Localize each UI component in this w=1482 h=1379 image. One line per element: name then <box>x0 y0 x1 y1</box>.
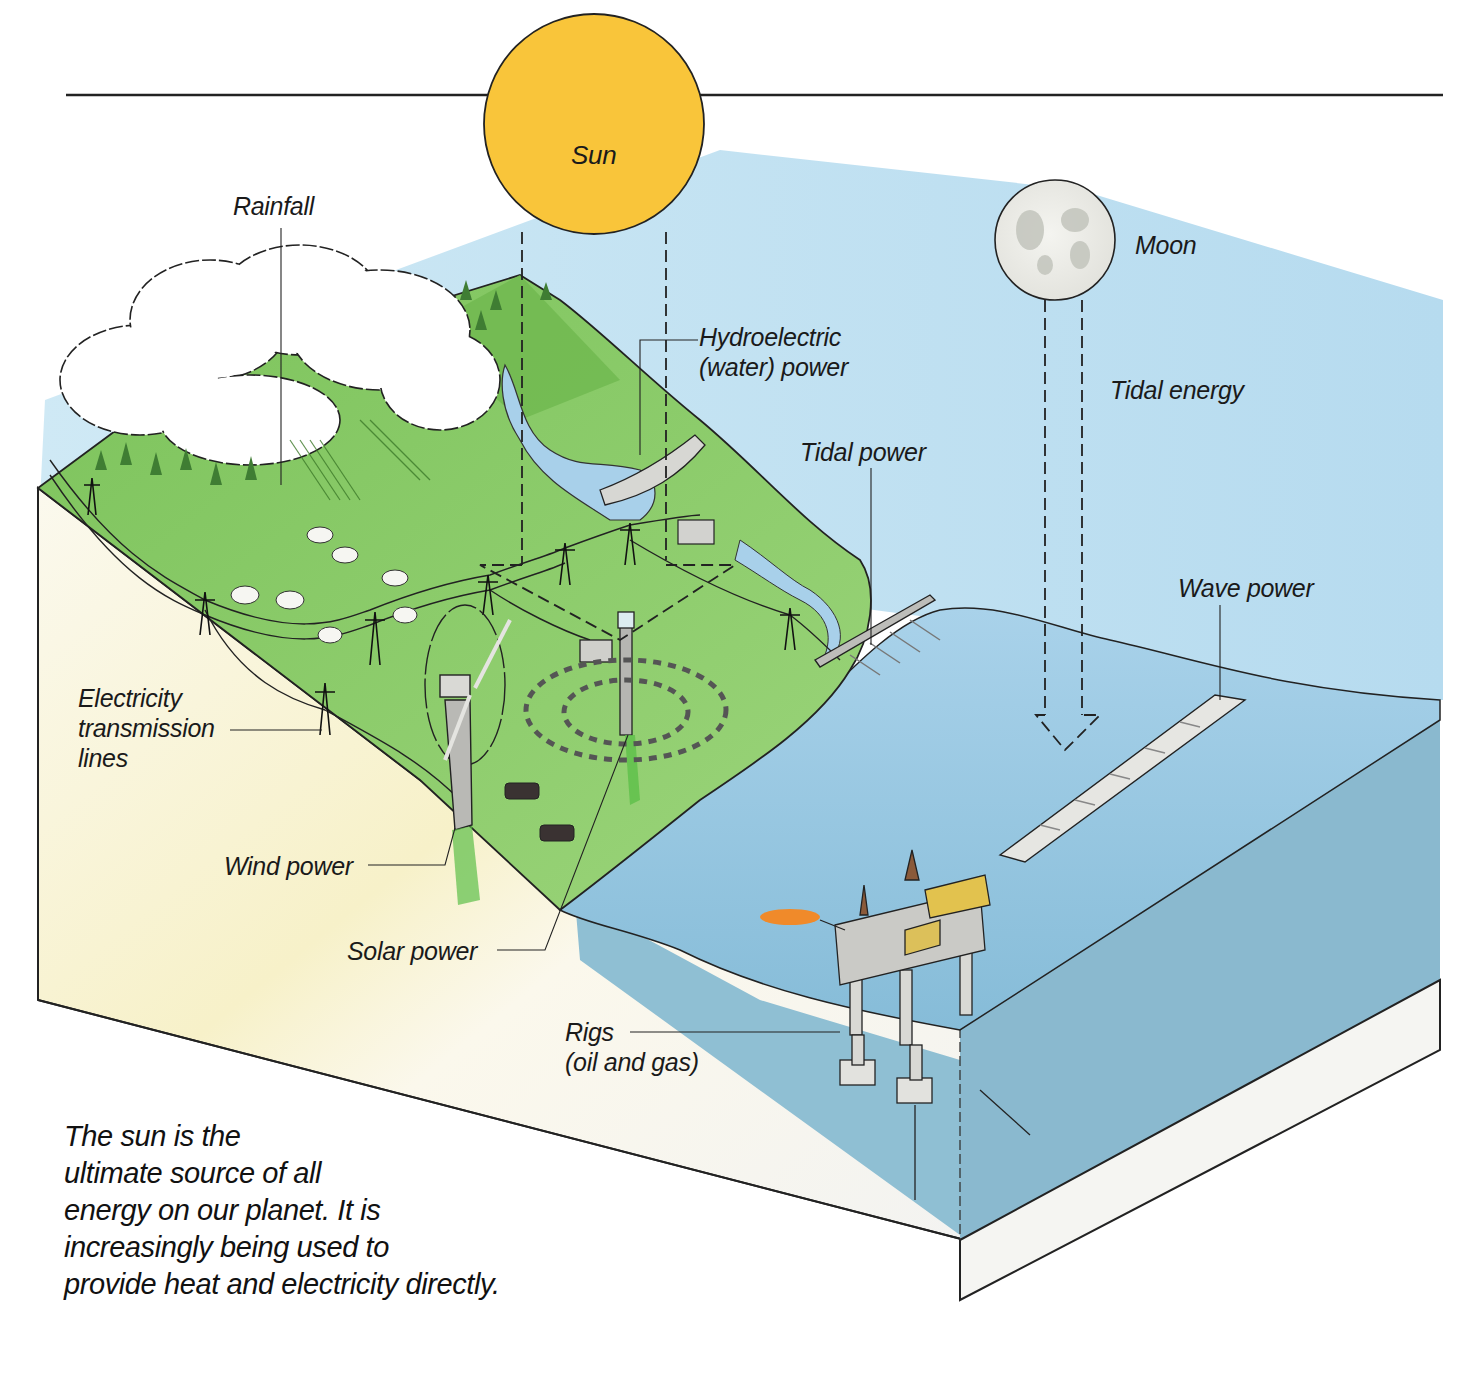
sun-disc <box>484 14 704 234</box>
sun-label: Sun <box>571 140 616 170</box>
moon-label: Moon <box>1135 230 1196 260</box>
energy-sources-diagram: Sun Moon Rainfall Hydroelectric (water) … <box>0 0 1482 1379</box>
caption-line: provide heat and electricity directly. <box>64 1266 564 1303</box>
rainfall-label: Rainfall <box>233 191 314 221</box>
caption-line: increasingly being used to <box>64 1229 564 1266</box>
hydroelectric-label: Hydroelectric (water) power <box>699 322 848 382</box>
electricity-transmission-label: Electricity transmission lines <box>78 683 215 773</box>
hydroelectric-label-line2: (water) power <box>699 352 848 382</box>
hydroelectric-label-line1: Hydroelectric <box>699 322 848 352</box>
hydro-powerhouse <box>678 520 714 544</box>
wind-power-label: Wind power <box>224 851 353 881</box>
electricity-label-line2: transmission <box>78 713 215 743</box>
rigs-label: Rigs (oil and gas) <box>565 1017 699 1077</box>
electricity-label-line1: Electricity <box>78 683 215 713</box>
tidal-power-label: Tidal power <box>800 437 926 467</box>
caption-line: energy on our planet. It is <box>64 1192 564 1229</box>
tidal-energy-label: Tidal energy <box>1110 375 1244 405</box>
electricity-label-line3: lines <box>78 743 215 773</box>
rigs-label-line2: (oil and gas) <box>565 1047 699 1077</box>
moon-disc <box>995 180 1115 300</box>
caption-line: The sun is the <box>64 1118 564 1155</box>
figure-caption: The sun is the ultimate source of all en… <box>64 1118 564 1303</box>
caption-line: ultimate source of all <box>64 1155 564 1192</box>
rigs-label-line1: Rigs <box>565 1017 699 1047</box>
wave-power-label: Wave power <box>1178 573 1314 603</box>
solar-power-label: Solar power <box>347 936 477 966</box>
